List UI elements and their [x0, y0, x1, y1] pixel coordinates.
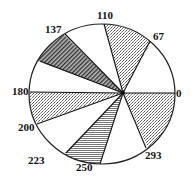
angle-label-250: 250 — [76, 161, 93, 173]
sector-diagram: 067110137180200223250293 — [0, 0, 194, 184]
angle-label-180: 180 — [12, 85, 29, 97]
angle-label-200: 200 — [18, 121, 35, 133]
angle-label-110: 110 — [97, 9, 113, 21]
angle-label-223: 223 — [28, 154, 45, 166]
hub-point — [121, 91, 125, 95]
sector-293-0 — [123, 93, 175, 148]
angle-label-67: 67 — [153, 30, 165, 42]
shaded-sectors — [29, 24, 175, 164]
angle-label-137: 137 — [45, 23, 62, 35]
angle-label-293: 293 — [145, 149, 162, 161]
angle-label-0: 0 — [176, 87, 182, 99]
